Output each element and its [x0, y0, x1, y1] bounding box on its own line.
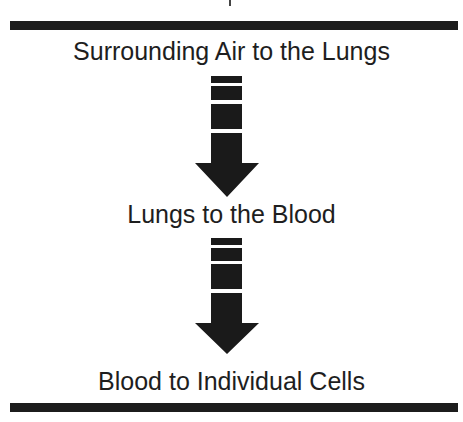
down-arrow-icon: [195, 76, 259, 197]
step-label-air-to-lungs: Surrounding Air to the Lungs: [0, 37, 463, 65]
top-rule: [10, 21, 458, 30]
down-arrow-icon: [195, 238, 259, 354]
bottom-rule: [10, 403, 458, 412]
top-fragment-mark: [229, 0, 231, 6]
step-label-lungs-to-blood: Lungs to the Blood: [0, 200, 463, 228]
step-label-blood-to-cells: Blood to Individual Cells: [0, 367, 463, 395]
